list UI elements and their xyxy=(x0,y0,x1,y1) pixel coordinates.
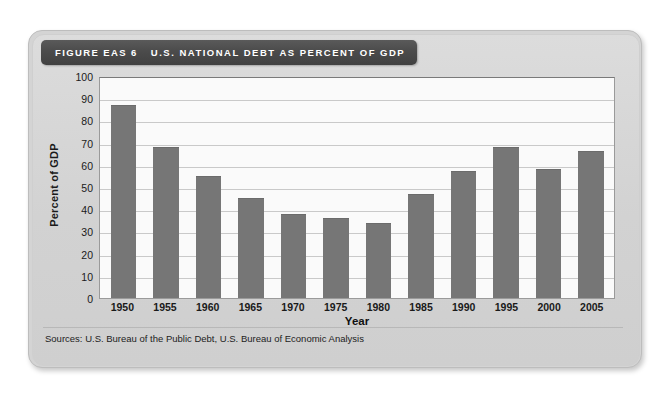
bar-1995[interactable] xyxy=(493,147,519,298)
y-tick-30: 30 xyxy=(81,226,93,238)
bar-slot xyxy=(272,78,315,298)
bar-slot xyxy=(230,78,273,298)
y-axis-label-text: Percent of GDP xyxy=(48,143,60,227)
x-axis-label: Year xyxy=(99,315,615,327)
y-tick-100: 100 xyxy=(75,71,93,83)
y-tick-50: 50 xyxy=(81,182,93,194)
y-tick-20: 20 xyxy=(81,249,93,261)
chart-region: Percent of GDP 1009080706050403020100 19… xyxy=(41,71,627,329)
source-divider xyxy=(43,327,623,328)
bar-slot xyxy=(315,78,358,298)
bar-1960[interactable] xyxy=(196,176,222,298)
figure-screenshot: FIGURE EAS 6 U.S. NATIONAL DEBT AS PERCE… xyxy=(0,0,670,395)
bar-2000[interactable] xyxy=(536,169,562,298)
source-note: Sources: U.S. Bureau of the Public Debt,… xyxy=(45,333,364,344)
figure-number-label: FIGURE EAS 6 xyxy=(55,47,138,58)
y-tick-0: 0 xyxy=(87,293,93,305)
bar-1975[interactable] xyxy=(323,218,349,298)
y-tick-90: 90 xyxy=(81,93,93,105)
figure-title-banner: FIGURE EAS 6 U.S. NATIONAL DEBT AS PERCE… xyxy=(41,40,417,65)
y-axis-tick-labels: 1009080706050403020100 xyxy=(63,71,97,299)
figure-title: U.S. NATIONAL DEBT AS PERCENT OF GDP xyxy=(151,47,405,58)
y-tick-80: 80 xyxy=(81,115,93,127)
bar-1965[interactable] xyxy=(238,198,264,298)
bar-series xyxy=(100,78,614,298)
figure-card: FIGURE EAS 6 U.S. NATIONAL DEBT AS PERCE… xyxy=(28,30,642,368)
y-tick-60: 60 xyxy=(81,160,93,172)
bar-1955[interactable] xyxy=(153,147,179,298)
bar-slot xyxy=(400,78,443,298)
bar-1980[interactable] xyxy=(366,223,392,298)
y-tick-70: 70 xyxy=(81,138,93,150)
bar-slot xyxy=(145,78,188,298)
bar-1950[interactable] xyxy=(111,105,137,298)
bar-1985[interactable] xyxy=(408,194,434,298)
y-tick-10: 10 xyxy=(81,271,93,283)
plot-area xyxy=(99,77,615,299)
bar-slot xyxy=(485,78,528,298)
bar-1990[interactable] xyxy=(451,171,477,298)
y-tick-40: 40 xyxy=(81,204,93,216)
y-axis-label: Percent of GDP xyxy=(45,71,63,299)
bar-slot xyxy=(442,78,485,298)
bar-slot xyxy=(187,78,230,298)
bar-slot xyxy=(570,78,613,298)
bar-slot xyxy=(102,78,145,298)
bar-2005[interactable] xyxy=(578,151,604,298)
bar-1970[interactable] xyxy=(281,214,307,298)
bar-slot xyxy=(527,78,570,298)
bar-slot xyxy=(357,78,400,298)
